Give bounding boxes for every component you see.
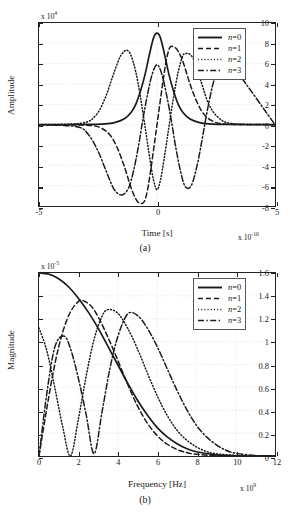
legend-a: n=0n=1n=2n=3 [193,28,246,80]
y-tick [271,273,275,274]
legend-line-swatch-solid [197,283,223,292]
x-tick-label: 2 [77,458,81,467]
x-tick [118,273,119,277]
legend-line-swatch-dashed [197,44,223,53]
y-tick-label: 1.4 [259,292,269,301]
legend-entry: n=2 [197,304,241,315]
x-axis-multiplier-b: x 109 [240,482,256,493]
y-tick [39,412,43,413]
y-tick [271,105,275,106]
y-tick [271,389,275,390]
y-tick-label: -4 [262,162,269,171]
panel-b: x 10-5 Magnitude 00.20.40.60.811.21.41.6… [0,258,290,516]
y-tick-label: 8 [265,39,269,48]
y-axis-multiplier-b: x 10-5 [41,260,59,271]
legend-label: n=2 [228,305,241,314]
x-tick [237,273,238,277]
y-tick [39,146,43,147]
y-tick [271,167,275,168]
legend-line-swatch-dotted [197,305,223,314]
y-tick [271,366,275,367]
x-tick [277,452,278,456]
y-tick [39,366,43,367]
y-tick [39,389,43,390]
y-axis-title-a: Amplitude [6,76,16,115]
legend-line-swatch-dotted [197,55,223,64]
x-tick-label: 0 [156,208,160,217]
legend-b: n=0n=1n=2n=3 [193,278,246,330]
x-tick-label: -5 [36,208,43,217]
x-tick-label: 10 [233,458,241,467]
y-tick [271,44,275,45]
x-tick-label: 8 [196,458,200,467]
x-tick [39,452,40,456]
y-tick-label: 10 [261,19,269,28]
x-tick-label: 6 [156,458,160,467]
y-tick-label: 0.4 [259,407,269,416]
legend-label: n=3 [228,316,241,325]
x-axis-title-b: Frequency [Hz] [128,479,186,489]
legend-label: n=1 [228,44,241,53]
x-tick [79,273,80,277]
y-tick-label: 6 [265,60,269,69]
legend-entry: n=2 [197,54,241,65]
y-tick [271,126,275,127]
y-tick [271,187,275,188]
y-axis-multiplier-a: x 104 [41,10,57,21]
y-tick [271,85,275,86]
y-tick [39,126,43,127]
y-tick-label: -2 [262,142,269,151]
x-tick [158,202,159,206]
x-tick [198,273,199,277]
x-tick [39,202,40,206]
y-tick [39,319,43,320]
y-tick-label: 0.6 [259,384,269,393]
x-axis-multiplier-a: x 10-10 [238,231,259,242]
x-tick [158,452,159,456]
legend-entry: n=0 [197,32,241,43]
legend-entry: n=0 [197,282,241,293]
x-tick [39,23,40,27]
x-tick [277,23,278,27]
x-tick [237,452,238,456]
y-tick-label: 1.6 [259,269,269,278]
y-tick-label: 2 [265,101,269,110]
panel-caption-b: (b) [0,494,290,505]
y-tick [39,187,43,188]
y-axis-title-b: Magnitude [6,330,16,370]
legend-entry: n=1 [197,43,241,54]
y-tick-label: 1.2 [259,315,269,324]
y-tick [271,319,275,320]
y-tick [271,64,275,65]
legend-label: n=3 [228,66,241,75]
figure-container: x 104 Amplitude -8-6-4-20246810-505 n=0n… [0,0,290,516]
legend-entry: n=3 [197,65,241,76]
y-tick-label: 4 [265,80,269,89]
legend-line-swatch-dashed [197,294,223,303]
x-tick [158,23,159,27]
x-tick [118,452,119,456]
y-tick-label: 0 [265,121,269,130]
y-tick [39,167,43,168]
y-tick [39,44,43,45]
y-tick [39,105,43,106]
y-tick [39,342,43,343]
y-tick-label: 0.2 [259,430,269,439]
y-tick [271,412,275,413]
x-tick-label: 12 [273,458,281,467]
y-tick-label: 1 [265,338,269,347]
y-tick-label: 0.8 [259,361,269,370]
panel-a: x 104 Amplitude -8-6-4-20246810-505 n=0n… [0,0,290,258]
x-tick-label: 0 [37,458,41,467]
y-tick [271,296,275,297]
y-tick [271,146,275,147]
legend-label: n=0 [228,283,241,292]
y-tick [271,435,275,436]
y-tick-label: -8 [262,204,269,213]
legend-entry: n=3 [197,315,241,326]
legend-label: n=2 [228,55,241,64]
x-tick [277,202,278,206]
y-tick [39,435,43,436]
panel-caption-a: (a) [0,242,290,253]
y-tick [271,23,275,24]
